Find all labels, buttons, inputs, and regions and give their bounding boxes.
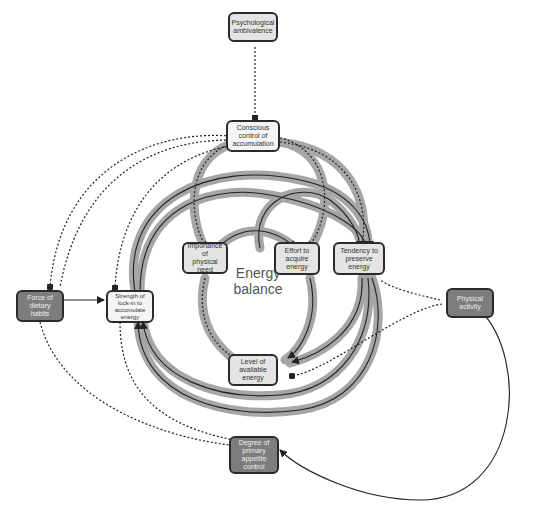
node-label-line: control of — [232, 132, 273, 140]
node-degree-appetite-control[interactable]: Degree of primary appetite control — [229, 436, 279, 474]
node-label-line: Importance of — [186, 242, 224, 258]
node-label-line: Degree of — [239, 439, 270, 447]
node-label-line: habits — [27, 310, 53, 318]
node-label-line: energy — [285, 263, 309, 271]
node-effort-acquire-energy[interactable]: Effort to acquire energy — [274, 242, 320, 275]
node-label-line: accumulate — [115, 307, 146, 314]
node-label-line: energy — [340, 263, 378, 271]
node-label-line: energy — [115, 314, 146, 321]
node-label-line: control — [239, 463, 270, 471]
node-label-line: preserve — [340, 255, 378, 263]
node-label-line: acquire — [285, 255, 309, 263]
energy-balance-line-2: balance — [218, 281, 298, 297]
node-label-line: dietary — [27, 302, 53, 310]
node-label-line: Strength of — [115, 293, 146, 300]
node-level-available-energy[interactable]: Level of available energy — [228, 354, 278, 386]
node-label-line: Psychological — [232, 19, 275, 27]
node-label-line: Effort to — [285, 247, 309, 255]
node-label-line: accumulation — [232, 140, 273, 148]
node-force-dietary-habits[interactable]: Force of dietary habits — [16, 290, 64, 322]
node-psychological-ambivalence[interactable]: Psychological ambivalence — [228, 12, 278, 42]
node-label-line: primary — [239, 447, 270, 455]
node-importance-physical-need[interactable]: Importance of physical need — [182, 242, 228, 274]
node-tendency-preserve-energy[interactable]: Tendency to preserve energy — [333, 242, 385, 275]
node-label-line: Tendency to — [340, 247, 378, 255]
node-label-line: Force of — [27, 294, 53, 302]
node-conscious-control[interactable]: Conscious control of accumulation — [226, 120, 280, 152]
node-label-line: available — [239, 366, 267, 374]
node-label-line: ambivalence — [232, 27, 275, 35]
node-strength-lock-in[interactable]: Strength of lock-in to accumulate energy — [106, 290, 154, 323]
node-label-line: activity — [457, 303, 483, 311]
node-label-line: lock-in to — [115, 300, 146, 307]
node-label-line: physical need — [186, 258, 224, 274]
node-label-line: appetite — [239, 455, 270, 463]
node-physical-activity[interactable]: Physical activity — [446, 288, 494, 318]
node-label-line: Level of — [239, 358, 267, 366]
node-label-line: Physical — [457, 295, 483, 303]
node-label-line: energy — [239, 374, 267, 382]
causal-links — [63, 175, 509, 500]
node-label-line: Conscious — [232, 124, 273, 132]
